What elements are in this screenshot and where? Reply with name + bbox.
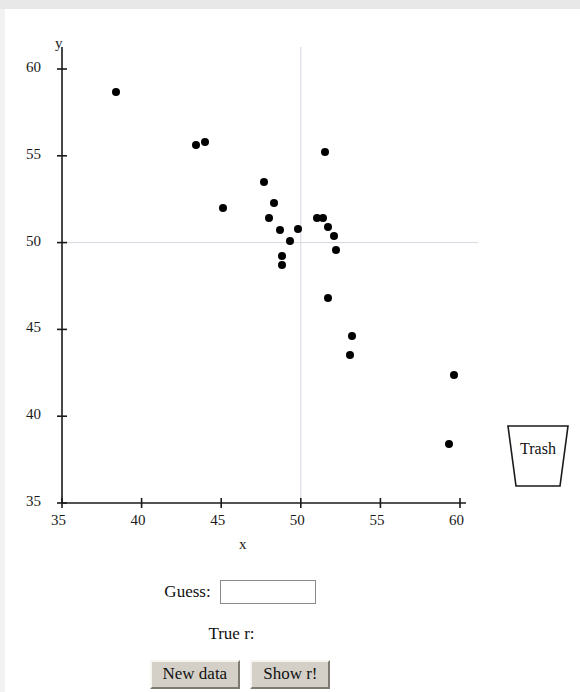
new-data-button[interactable]: New data: [150, 660, 241, 689]
data-point[interactable]: [112, 88, 120, 96]
scatter-plot[interactable]: 354045505560354045505560 y x: [0, 9, 480, 554]
controls-panel: Guess: True r: New data Show r!: [0, 575, 480, 689]
guess-row: Guess:: [0, 575, 480, 609]
x-tick-label: 50: [290, 512, 305, 529]
x-tick-label: 60: [449, 512, 464, 529]
guess-input[interactable]: [220, 580, 316, 604]
crosshair-gridlines: [62, 47, 478, 503]
data-point[interactable]: [286, 237, 294, 245]
trash-label: Trash: [505, 440, 571, 458]
x-tick-label: 45: [210, 512, 225, 529]
trash-can[interactable]: Trash: [505, 424, 571, 488]
show-r-button[interactable]: Show r!: [250, 660, 330, 689]
plot-axes: [62, 47, 466, 503]
x-tick-label: 35: [51, 512, 66, 529]
data-point[interactable]: [324, 294, 332, 302]
y-tick-label: 40: [26, 406, 41, 423]
data-point[interactable]: [330, 232, 338, 240]
data-point[interactable]: [294, 225, 302, 233]
x-tick-label: 55: [369, 512, 384, 529]
data-point[interactable]: [260, 178, 268, 186]
button-row: New data Show r!: [0, 659, 480, 689]
y-tick-label: 50: [26, 233, 41, 250]
window-top-strip: [0, 0, 580, 9]
data-point[interactable]: [219, 204, 227, 212]
y-tick-label: 55: [26, 146, 41, 163]
x-axis-label: x: [239, 536, 247, 553]
data-point[interactable]: [321, 148, 329, 156]
data-point[interactable]: [278, 261, 286, 269]
y-tick-label: 45: [26, 319, 41, 336]
x-tick-label: 40: [131, 512, 146, 529]
true-r-label: True r:: [208, 624, 254, 644]
axis-ticks: [57, 69, 460, 508]
true-r-row: True r:: [0, 619, 480, 649]
data-point[interactable]: [324, 223, 332, 231]
y-tick-label: 35: [26, 493, 41, 510]
y-tick-label: 60: [26, 59, 41, 76]
y-axis-label: y: [55, 35, 63, 52]
plot-canvas: [0, 9, 480, 554]
guess-label: Guess:: [164, 582, 210, 602]
data-point[interactable]: [450, 371, 458, 379]
data-point[interactable]: [332, 246, 340, 254]
data-point[interactable]: [445, 440, 453, 448]
data-point[interactable]: [270, 199, 278, 207]
